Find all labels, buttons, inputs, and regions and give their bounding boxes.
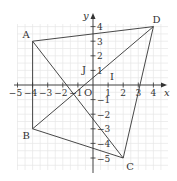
y-tick-label: −5 <box>97 154 111 164</box>
unit-vector-i-label: I <box>110 71 114 82</box>
x-tick-label: −4 <box>24 88 38 98</box>
x-tick-label: 3 <box>135 88 141 98</box>
point-label-B: B <box>23 130 30 141</box>
y-tick-label: 2 <box>97 51 103 61</box>
quadrilateral-plot: −5−4−3−2−112344321−1−2−3−4−5xyOJIABCD <box>0 0 177 181</box>
x-tick-label: 2 <box>120 88 126 98</box>
y-tick-label: 3 <box>97 37 103 47</box>
x-axis-label: x <box>164 87 170 98</box>
x-tick-label: 4 <box>151 88 157 98</box>
x-tick-label: −2 <box>54 88 67 98</box>
y-tick-label: −1 <box>97 95 110 105</box>
origin-label: O <box>84 87 92 98</box>
y-axis-arrow-icon <box>91 13 96 19</box>
point-label-D: D <box>152 14 160 25</box>
x-tick-label: −5 <box>9 88 23 98</box>
point-label-C: C <box>126 161 134 172</box>
y-tick-label: 1 <box>97 66 103 76</box>
coordinate-diagram: −5−4−3−2−112344321−1−2−3−4−5xyOJIABCD <box>0 0 177 181</box>
y-tick-label: −2 <box>97 110 110 120</box>
x-tick-label: −3 <box>39 88 53 98</box>
y-tick-label: −3 <box>97 124 111 134</box>
y-tick-label: −4 <box>97 139 111 149</box>
unit-vector-j-label: J <box>81 64 86 75</box>
y-axis-label: y <box>82 10 89 21</box>
x-tick-label: −1 <box>69 88 82 98</box>
point-label-A: A <box>22 29 31 40</box>
y-tick-label: 4 <box>97 22 103 32</box>
